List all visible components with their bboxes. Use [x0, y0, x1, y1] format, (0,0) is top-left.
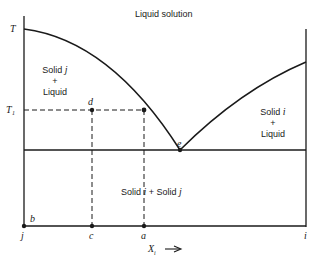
label-b: b: [30, 213, 35, 224]
label-liquid: Liquid: [248, 129, 298, 140]
label-T: T: [10, 23, 16, 34]
label-j-symbol: j: [65, 64, 68, 75]
label-solid-j: Solid j: [30, 64, 80, 76]
label-j: j: [21, 230, 24, 241]
point-c: [90, 224, 94, 228]
point-b: [22, 224, 26, 228]
label-a: a: [141, 230, 146, 241]
point-d: [90, 108, 94, 112]
label-solid-i-solid-j: Solid i + Solid j: [121, 186, 182, 198]
point-liquidus-t1: [142, 108, 147, 113]
label-liquid-solution: Liquid solution: [135, 9, 193, 20]
label-i: i: [304, 230, 307, 241]
label-x-axis: Xi: [148, 243, 156, 259]
label-solid-j-liquid: Solid j + Liquid: [30, 64, 80, 98]
label-T1: T₁: [6, 104, 15, 115]
label-e: e: [177, 138, 181, 149]
label-d: d: [88, 96, 93, 107]
label-solid-i-liquid: Solid i + Liquid: [248, 106, 298, 140]
label-plus: +: [30, 76, 80, 87]
label-solid-i: Solid i: [248, 106, 298, 118]
label-plus: +: [248, 118, 298, 129]
label-c: c: [89, 230, 93, 241]
label-liquid: Liquid: [30, 87, 80, 98]
point-a: [142, 224, 146, 228]
label-i-symbol: i: [283, 106, 286, 117]
